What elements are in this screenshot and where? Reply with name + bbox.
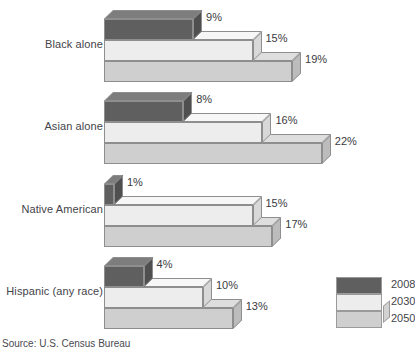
bar-top-face	[104, 196, 262, 205]
legend-label-2050: 2050	[391, 312, 415, 324]
bar-value-label: 4%	[157, 258, 173, 270]
bar-value-label: 13%	[246, 300, 268, 312]
legend-label-2030: 2030	[391, 295, 415, 307]
bar-top-face	[104, 92, 193, 101]
source-note: Source: U.S. Census Bureau	[2, 338, 130, 347]
bar-2050[interactable]	[104, 143, 322, 164]
bar-front-face	[104, 308, 233, 329]
bar-group: Native American1%15%17%	[0, 175, 392, 247]
category-label: Black alone	[3, 38, 103, 50]
bar-front-face	[104, 143, 322, 164]
bar-front-face	[104, 205, 253, 226]
bar-value-label: 15%	[266, 197, 288, 209]
bar-value-label: 19%	[305, 53, 327, 65]
bar-2008[interactable]	[104, 101, 183, 122]
bar-value-label: 22%	[335, 135, 357, 147]
bar-front-face	[104, 40, 253, 61]
bar-group: Asian alone8%16%22%	[0, 92, 392, 164]
group-plot-area: 9%15%19%	[104, 10, 392, 82]
bar-value-label: 8%	[196, 93, 212, 105]
bar-value-label: 16%	[275, 114, 297, 126]
bar-value-label: 9%	[206, 11, 222, 23]
legend-swatch-2008	[336, 277, 382, 294]
bar-2030[interactable]	[104, 122, 262, 143]
legend-label-2008: 2008	[391, 278, 415, 290]
bar-front-face	[104, 287, 203, 308]
bar-2030[interactable]	[104, 205, 253, 226]
bar-2008[interactable]	[104, 184, 114, 205]
category-label: Hispanic (any race)	[3, 285, 103, 297]
group-plot-area: 1%15%17%	[104, 175, 392, 247]
bar-front-face	[104, 226, 272, 247]
category-label: Asian alone	[3, 120, 103, 132]
bar-2030[interactable]	[104, 287, 203, 308]
legend-swatch-2050	[336, 311, 382, 328]
bar-2050[interactable]	[104, 308, 233, 329]
bar-front-face	[104, 184, 114, 205]
bar-value-label: 10%	[216, 279, 238, 291]
bar-top-face	[104, 10, 202, 19]
chart-title	[60, 0, 340, 4]
bar-2008[interactable]	[104, 266, 144, 287]
chart-legend: 2008 2030 2050	[336, 277, 382, 328]
legend-item-2030[interactable]: 2030	[336, 294, 382, 311]
bar-2030[interactable]	[104, 40, 253, 61]
bar-value-label: 1%	[127, 176, 143, 188]
bar-group: Hispanic (any race)4%10%13%	[0, 257, 392, 329]
bar-front-face	[104, 266, 144, 287]
bar-2050[interactable]	[104, 61, 292, 82]
category-label: Native American	[3, 203, 103, 215]
bar-2050[interactable]	[104, 226, 272, 247]
bar-group: Black alone9%15%19%	[0, 10, 392, 82]
bar-front-face	[104, 101, 183, 122]
bar-front-face	[104, 19, 193, 40]
bar-front-face	[104, 61, 292, 82]
legend-item-2050[interactable]: 2050	[336, 311, 382, 328]
bar-2008[interactable]	[104, 19, 193, 40]
legend-swatch-2030	[336, 294, 382, 311]
legend-item-2008[interactable]: 2008	[336, 277, 382, 294]
bar-value-label: 15%	[266, 32, 288, 44]
group-plot-area: 8%16%22%	[104, 92, 392, 164]
bar-front-face	[104, 122, 262, 143]
bar-value-label: 17%	[285, 218, 307, 230]
